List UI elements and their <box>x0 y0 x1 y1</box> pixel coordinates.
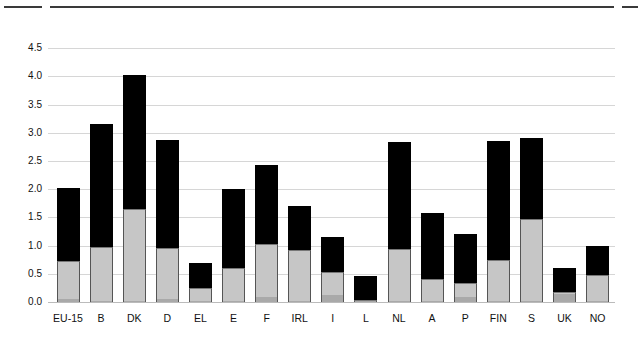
bar-segment-light <box>123 209 146 301</box>
bar-segment-dark <box>255 297 278 302</box>
bar-segment-black <box>156 140 179 248</box>
bar-l <box>354 0 377 302</box>
bar-eu-15 <box>57 0 80 302</box>
y-tick-label: 3.5 <box>0 99 42 110</box>
bar-uk <box>553 0 576 302</box>
bar-f <box>255 0 278 302</box>
bar-segment-light <box>57 261 80 299</box>
x-axis-baseline <box>48 302 615 303</box>
top-rule-right <box>622 6 638 8</box>
bar-segment-dark <box>57 299 80 302</box>
bar-segment-dark <box>520 301 543 302</box>
bar-el <box>189 0 212 302</box>
y-tick-label: 2.0 <box>0 183 42 194</box>
y-tick-label: 3.0 <box>0 127 42 138</box>
bar-segment-black <box>189 263 212 289</box>
bar-segment-light <box>388 249 411 301</box>
bar-segment-dark <box>321 295 344 302</box>
bar-segment-dark <box>487 301 510 302</box>
bar-segment-black <box>586 246 609 275</box>
bar-segment-black <box>321 237 344 272</box>
bar-segment-light <box>156 248 179 299</box>
bar-s <box>520 0 543 302</box>
bar-e <box>222 0 245 302</box>
bar-segment-dark <box>586 301 609 302</box>
y-tick-label: 0.0 <box>0 296 42 307</box>
bar-segment-dark <box>354 301 377 302</box>
bar-segment-black <box>123 75 146 209</box>
bar-segment-dark <box>388 301 411 302</box>
bar-segment-black <box>90 124 113 247</box>
bar-dk <box>123 0 146 302</box>
y-tick-label: 0.5 <box>0 268 42 279</box>
bar-segment-light <box>189 288 212 300</box>
bar-segment-light <box>288 250 311 301</box>
bar-segment-light <box>421 279 444 300</box>
bar-d <box>156 0 179 302</box>
bar-segment-dark <box>222 301 245 302</box>
bar-segment-light <box>321 272 344 295</box>
bar-segment-light <box>454 283 477 297</box>
bar-segment-light <box>487 260 510 301</box>
y-tick-label: 1.5 <box>0 211 42 222</box>
bar-segment-light <box>255 244 278 297</box>
bar-segment-dark <box>123 301 146 302</box>
bar-segment-black <box>421 213 444 280</box>
bar-b <box>90 0 113 302</box>
bar-segment-black <box>57 188 80 261</box>
bar-i <box>321 0 344 302</box>
bar-segment-dark <box>156 299 179 302</box>
bar-segment-black <box>553 268 576 292</box>
top-rule-left <box>4 6 42 8</box>
bar-segment-dark <box>90 301 113 302</box>
y-tick-label: 4.5 <box>0 42 42 53</box>
y-tick-label: 1.0 <box>0 240 42 251</box>
bar-segment-light <box>586 275 609 301</box>
bar-segment-light <box>222 268 245 301</box>
bar-a <box>421 0 444 302</box>
bar-segment-dark <box>288 301 311 302</box>
bar-segment-light <box>354 300 377 301</box>
bar-p <box>454 0 477 302</box>
bar-segment-black <box>255 165 278 244</box>
bar-segment-black <box>388 142 411 249</box>
bar-irl <box>288 0 311 302</box>
bar-segment-black <box>454 234 477 284</box>
bar-segment-black <box>222 189 245 267</box>
bar-fin <box>487 0 510 302</box>
bar-segment-dark <box>553 294 576 302</box>
bar-segment-dark <box>189 301 212 302</box>
bar-segment-dark <box>454 297 477 302</box>
y-tick-label: 4.0 <box>0 70 42 81</box>
bar-segment-light <box>553 292 576 294</box>
bar-segment-black <box>487 141 510 260</box>
bar-segment-dark <box>421 301 444 302</box>
bar-segment-black <box>520 138 543 218</box>
y-tick-label: 2.5 <box>0 155 42 166</box>
bar-nl <box>388 0 411 302</box>
bar-segment-light <box>90 247 113 301</box>
bar-segment-black <box>354 276 377 300</box>
bar-segment-black <box>288 206 311 250</box>
x-tick-label: NO <box>578 312 618 324</box>
bar-no <box>586 0 609 302</box>
bar-segment-light <box>520 219 543 301</box>
